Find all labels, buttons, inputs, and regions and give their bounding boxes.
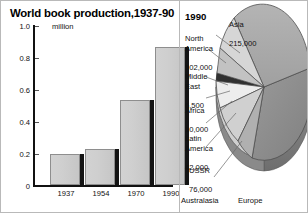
bar-chart-panel: World book production,1937-90 million 1.… [1,1,179,213]
pie-label-ussr-name: USSR [189,166,210,175]
x-tick-label-1954: 1954 [85,189,117,198]
x-tick-label-1937: 1937 [50,189,82,198]
bar-1954[interactable] [85,149,115,185]
pie-label-africa-name: Africa [185,106,204,115]
pie-chart-panel: 1990 [180,1,308,213]
pie-label-australasia: Australasia 12,000 [181,187,235,213]
pie-label-latin-america-name: Latin America [185,134,213,152]
y-tick-label: 1.0 [19,22,30,31]
pie-label-asia-name: Asia [229,20,244,29]
chart-figure: World book production,1937-90 million 1.… [0,0,308,213]
y-tick-label: 0.8 [19,54,30,63]
bar-chart-plot-area [33,25,173,185]
y-tick-label: 0.2 [19,150,30,159]
y-tick-label: 0.6 [19,86,30,95]
bar-chart-y-axis: 1.0 0.8 0.6 0.4 0.2 0 [1,1,30,213]
pie-label-north-america-name: North America [185,34,213,52]
bar-shadow-1937 [80,154,84,185]
pie-label-europe: Europe 403,000 [238,187,296,213]
pie-label-asia: Asia 215,000 [229,11,281,49]
bar-shadow-1970 [150,100,154,185]
pie-label-asia-value: 215,000 [229,39,256,48]
x-axis-line [33,185,173,187]
pie-label-europe-name: Europe [238,196,263,205]
bar-1970[interactable] [120,100,150,185]
y-tick-label: 0.4 [19,118,30,127]
x-tick-label-1970: 1970 [120,189,152,198]
pie-label-australasia-name: Australasia [181,196,219,205]
pie-label-middle-east-name: Middle East [185,72,207,90]
bar-shadow-1954 [115,149,119,185]
y-tick-label: 0 [26,182,30,191]
bar-1937[interactable] [50,154,80,185]
bar-chart-title: World book production,1937-90 [10,7,174,19]
